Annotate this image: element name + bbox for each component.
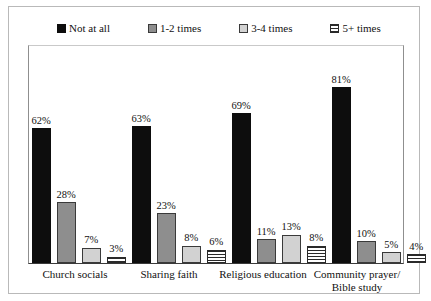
legend-swatch-icon bbox=[239, 24, 248, 33]
legend-swatch-icon bbox=[148, 24, 157, 33]
bar[interactable] bbox=[207, 250, 226, 263]
bar[interactable] bbox=[332, 87, 351, 263]
legend-swatch-icon bbox=[57, 24, 66, 33]
plot-area: 62%28%7%3%63%23%8%6%69%11%13%8%81%10%5%4… bbox=[28, 45, 404, 264]
bar-value-label: 62% bbox=[31, 116, 50, 127]
bar-slot: 63% bbox=[132, 46, 151, 263]
bar-value-label: 10% bbox=[356, 229, 375, 240]
bar-slot: 5% bbox=[382, 46, 401, 263]
bar[interactable] bbox=[132, 126, 151, 263]
legend-item-5-times[interactable]: 5+ times bbox=[330, 23, 380, 34]
category-label: Community prayer/Bible study bbox=[310, 268, 404, 294]
bar-slot: 23% bbox=[157, 46, 176, 263]
bar-group: 63%23%8%6% bbox=[129, 46, 229, 263]
bar-group: 81%10%5%4% bbox=[329, 46, 429, 263]
bar[interactable] bbox=[157, 213, 176, 263]
bar-value-label: 28% bbox=[56, 190, 75, 201]
chart-figure: Not at all1-2 times3-4 times5+ times 62%… bbox=[8, 6, 420, 294]
bar-value-label: 8% bbox=[184, 233, 198, 244]
bar-slot: 11% bbox=[257, 46, 276, 263]
bar[interactable] bbox=[407, 254, 426, 263]
bar[interactable] bbox=[357, 241, 376, 263]
bar-slot: 28% bbox=[57, 46, 76, 263]
bar-value-label: 23% bbox=[156, 201, 175, 212]
bar-slot: 8% bbox=[307, 46, 326, 263]
chart-legend: Not at all1-2 times3-4 times5+ times bbox=[9, 19, 419, 37]
category-label: Church socials bbox=[28, 268, 122, 294]
bar[interactable] bbox=[232, 113, 251, 263]
bar[interactable] bbox=[182, 246, 201, 263]
bar[interactable] bbox=[282, 235, 301, 263]
category-label-line: Sharing faith bbox=[122, 268, 216, 281]
bar[interactable] bbox=[307, 246, 326, 263]
category-label: Sharing faith bbox=[122, 268, 216, 294]
bar[interactable] bbox=[382, 252, 401, 263]
bar-slot: 4% bbox=[407, 46, 426, 263]
category-label-line: Religious education bbox=[216, 268, 310, 281]
bar-group: 69%11%13%8% bbox=[229, 46, 329, 263]
legend-label: 3-4 times bbox=[251, 23, 292, 34]
legend-item-1-2-times[interactable]: 1-2 times bbox=[148, 23, 201, 34]
bar-group: 62%28%7%3% bbox=[29, 46, 129, 263]
bar[interactable] bbox=[32, 128, 51, 263]
bar-value-label: 63% bbox=[131, 114, 150, 125]
category-axis-labels: Church socialsSharing faithReligious edu… bbox=[28, 268, 404, 294]
bar-value-label: 4% bbox=[409, 242, 423, 253]
bar-value-label: 3% bbox=[109, 244, 123, 255]
bar[interactable] bbox=[82, 248, 101, 263]
legend-swatch-icon bbox=[330, 24, 339, 33]
bar-value-label: 13% bbox=[281, 222, 300, 233]
bar-slot: 3% bbox=[107, 46, 126, 263]
bar-value-label: 81% bbox=[331, 75, 350, 86]
category-label-line: Community prayer/ bbox=[310, 268, 404, 281]
bar-value-label: 69% bbox=[231, 101, 250, 112]
legend-label: 5+ times bbox=[342, 23, 380, 34]
bar-value-label: 7% bbox=[84, 235, 98, 246]
bar-slot: 8% bbox=[182, 46, 201, 263]
bar-value-label: 8% bbox=[309, 233, 323, 244]
bar-value-label: 6% bbox=[209, 237, 223, 248]
bar-value-label: 5% bbox=[384, 240, 398, 251]
legend-label: 1-2 times bbox=[160, 23, 201, 34]
legend-label: Not at all bbox=[69, 23, 110, 34]
bar-slot: 13% bbox=[282, 46, 301, 263]
bar[interactable] bbox=[107, 257, 126, 264]
bar-slot: 62% bbox=[32, 46, 51, 263]
bar-slot: 81% bbox=[332, 46, 351, 263]
category-label-line: Bible study bbox=[310, 281, 404, 294]
bar-groups: 62%28%7%3%63%23%8%6%69%11%13%8%81%10%5%4… bbox=[29, 46, 403, 263]
bar[interactable] bbox=[257, 239, 276, 263]
legend-item-3-4-times[interactable]: 3-4 times bbox=[239, 23, 292, 34]
category-label-line: Church socials bbox=[28, 268, 122, 281]
bar-value-label: 11% bbox=[257, 227, 276, 238]
bar[interactable] bbox=[57, 202, 76, 263]
bar-slot: 6% bbox=[207, 46, 226, 263]
category-label: Religious education bbox=[216, 268, 310, 294]
legend-item-not-at-all[interactable]: Not at all bbox=[57, 23, 110, 34]
bar-slot: 69% bbox=[232, 46, 251, 263]
bar-slot: 10% bbox=[357, 46, 376, 263]
bar-slot: 7% bbox=[82, 46, 101, 263]
